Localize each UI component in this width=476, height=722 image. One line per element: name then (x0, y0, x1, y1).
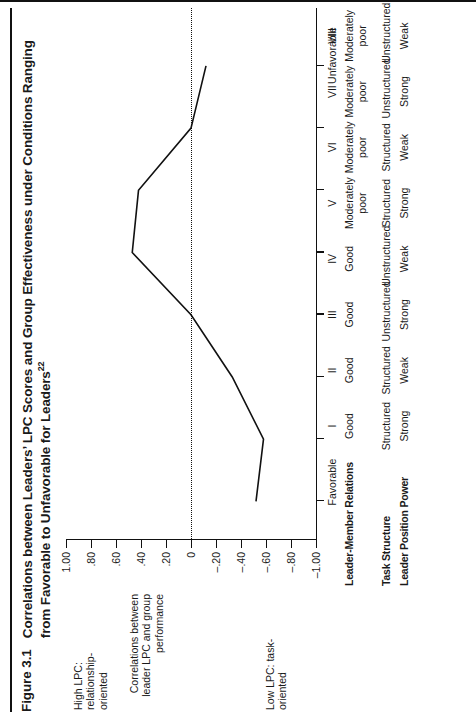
y-caption-low-line-1: Low LPC: (264, 664, 276, 710)
condition-cell: Moderately poor (341, 64, 371, 120)
condition-cell: VIII (324, 8, 341, 64)
condition-table: IIIIIIIVVVIVIIVIIILeader-Member Relation… (324, 8, 413, 586)
condition-cell: Strong (395, 398, 412, 454)
condition-cell: I (324, 398, 341, 454)
x-axis-tick (316, 65, 324, 66)
x-axis-tick (316, 438, 324, 439)
condition-row-label: Task Structure (378, 454, 395, 586)
y-caption-high-line-3: oriented (97, 672, 109, 710)
figure-right-rule (0, 0, 476, 3)
condition-header-row: IIIIIIIVVVIVIIVIII (324, 8, 341, 586)
condition-cell: Moderately poor (341, 175, 371, 231)
figure-caption: Figure 3.1 Correlations between Leaders’… (10, 8, 54, 712)
y-caption-low-line-3: oriented (276, 672, 288, 710)
condition-cell: Weak (395, 231, 412, 287)
condition-cell: Structured (378, 398, 395, 454)
condition-row-label-empty (324, 454, 341, 586)
x-axis-line (316, 8, 317, 540)
condition-cell: VI (324, 120, 341, 176)
condition-row-leader-position-power: Leader Position PowerStrongWeakStrongWea… (395, 8, 412, 586)
condition-cell: Weak (395, 8, 412, 64)
y-caption-high-line-2: relationship- (84, 653, 96, 710)
condition-cell: V (324, 175, 341, 231)
y-caption-low-line-2: task- (264, 639, 276, 662)
condition-cell: Structured (378, 120, 395, 176)
condition-cell: Good (341, 287, 371, 343)
condition-row-label: Leader Position Power (395, 454, 412, 586)
condition-cell: Unstructured (378, 8, 395, 64)
condition-cell: VII (324, 64, 341, 120)
y-caption-high-line-1: High LPC: (72, 662, 84, 710)
figure-rotation-wrapper: Figure 3.1 Correlations between Leaders’… (0, 0, 476, 722)
data-series-line (66, 8, 316, 586)
condition-cell: Strong (395, 175, 412, 231)
y-axis-title: Correlations between leader LPC and grou… (128, 594, 166, 712)
x-axis-tick (316, 189, 324, 190)
x-axis-tick (316, 251, 324, 252)
condition-cell: Moderately poor (341, 120, 371, 176)
condition-row-label: Leader-Member Relations (341, 454, 371, 586)
condition-cell: Structured (378, 175, 395, 231)
condition-cell: Good (341, 231, 371, 287)
condition-cell: III (324, 287, 341, 343)
plot-block: High LPC: relationship- oriented Low LPC… (66, 8, 316, 712)
y-axis-caption-high-lpc: High LPC: relationship- oriented (72, 638, 110, 710)
y-axis-tick (316, 539, 317, 548)
x-axis-tick (316, 500, 324, 501)
figure-3-1: Figure 3.1 Correlations between Leaders’… (0, 0, 476, 722)
figure-title-text: Correlations between Leaders’ LPC Scores… (20, 40, 53, 638)
x-axis-tick (316, 376, 324, 377)
y-axis-caption-low-lpc: Low LPC: task- oriented (264, 638, 289, 710)
condition-cell: Good (341, 343, 371, 399)
condition-cell: Strong (395, 64, 412, 120)
figure-title: Correlations between Leaders’ LPC Scores… (19, 26, 54, 638)
plot-axis-area: 1.00.80.60.40.200–.20–.40–.60–.80–1.00 F… (66, 8, 316, 586)
condition-cell: Unstructured (378, 231, 395, 287)
figure-number: Figure 3.1 (19, 649, 36, 712)
condition-cell: IV (324, 231, 341, 287)
y-axis-title-line-1: Correlations between (128, 594, 141, 712)
x-axis-tick (316, 127, 324, 128)
condition-row-task-structure: Task StructureStructuredStructuredUnstru… (378, 8, 395, 586)
condition-table-spacer (371, 8, 378, 586)
figure-title-footnote-marker: 22 (36, 362, 46, 372)
condition-cell: Good (341, 398, 371, 454)
x-axis-tick (316, 313, 324, 314)
condition-cell: Structured (378, 343, 395, 399)
condition-row-leader-member-relations: Leader-Member RelationsGoodGoodGoodGoodM… (341, 8, 371, 586)
condition-cell: Weak (395, 120, 412, 176)
condition-cell: Weak (395, 343, 412, 399)
condition-cell: Unstructured (378, 287, 395, 343)
condition-cell: II (324, 343, 341, 399)
condition-cell: Strong (395, 287, 412, 343)
y-axis-title-line-2: leader LPC and group performance (140, 594, 166, 712)
condition-cell: Unstructured (378, 64, 395, 120)
condition-cell: Moderately poor (341, 8, 371, 64)
